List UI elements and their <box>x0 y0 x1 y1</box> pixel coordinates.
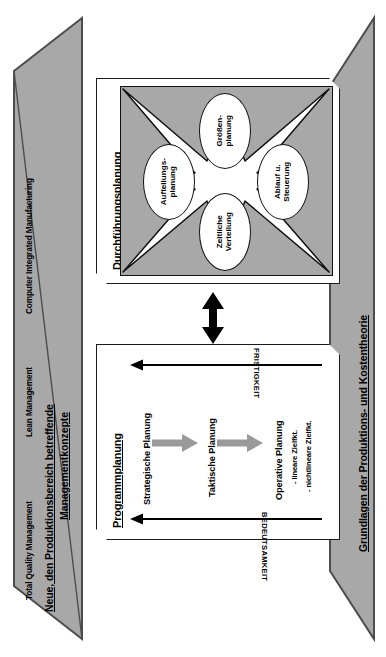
stage-arrow-2 <box>217 434 263 452</box>
stage-taktische-planung-label: Taktische Planung <box>208 418 218 497</box>
durchfuehrungsplanung-graphic: Größen- planung Aufteilungs- planung Abl… <box>120 86 333 276</box>
node-zeitliche-verteilung-label: Zeitliche Verteilung <box>216 212 233 251</box>
fristigkeit-axis-arrow <box>130 358 322 372</box>
stage-strategische-planung-label: Strategische Planung <box>143 413 153 505</box>
node-groessenplanung-label: Größen- planung <box>216 115 233 146</box>
stage-operative-planung-label: Operative Planung <box>275 421 285 500</box>
node-ablauf-steuerung: Ablauf u. Steuerung <box>257 144 309 220</box>
right-panel-title: Grundlagen der Produktions- und Kostenth… <box>358 315 369 552</box>
left-panel-item-lean-management: Lean Management <box>26 367 35 437</box>
node-aufteilungsplanung: Aufteilungs- planung <box>143 144 195 220</box>
node-zeitliche-verteilung: Zeitliche Verteilung <box>199 193 251 271</box>
node-groessenplanung: Größen- planung <box>199 93 251 169</box>
double-arrow-connector <box>198 292 228 344</box>
stage-operative-planung-sub-2: - nichtlineare Zielfkt. <box>305 420 313 492</box>
bedeutsamkeit-label: BEDEUTSAMKEIT <box>260 512 268 581</box>
diagram-canvas: Neue, den Produktionsbereich betreffende… <box>0 0 386 657</box>
fristigkeit-label: FRISTIGKEIT <box>252 348 260 399</box>
left-panel-item-computer-integrated-manufacturing: Computer Integrated Manufacturing <box>26 178 35 314</box>
left-panel-title-line1: Neue, den Produktionsbereich betreffende <box>44 404 55 612</box>
left-panel-title-line2: Managementkonzepte <box>59 412 70 520</box>
node-ablauf-steuerung-label: Ablauf u. Steuerung <box>274 162 291 202</box>
stage-operative-planung-sub-1: - lineare Zielfkt. <box>291 430 299 484</box>
stage-arrow-1 <box>152 434 198 452</box>
programmplanung-title: Programmplanung <box>112 433 124 528</box>
node-aufteilungsplanung-label: Aufteilungs- planung <box>160 158 177 205</box>
left-panel-item-total-quality-management: Total Quality Management <box>26 501 35 600</box>
bedeutsamkeit-axis-arrow <box>130 512 322 526</box>
